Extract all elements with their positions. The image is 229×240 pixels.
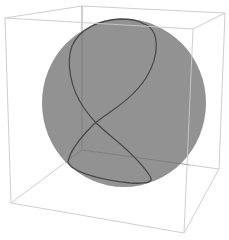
sphere [42,19,206,187]
3d-plot [0,0,229,240]
